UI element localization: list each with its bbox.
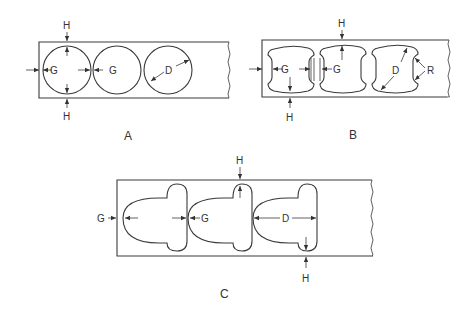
label-h: H [338, 18, 345, 29]
label-g: G [281, 64, 289, 75]
label-g: G [333, 64, 341, 75]
hole-lobed [123, 184, 187, 251]
panel-a: G G H H D A [26, 20, 230, 143]
caption-b: B [349, 128, 357, 142]
broken-edge-a [228, 42, 230, 98]
radius-arrow [415, 58, 425, 68]
label-h: H [286, 112, 293, 123]
label-g: G [109, 65, 117, 76]
broken-edge-c [371, 180, 373, 256]
caption-c: C [220, 287, 229, 301]
strip-outline-a [39, 42, 229, 98]
label-d: D [165, 65, 172, 76]
punched-strip-diagram: G G H H D A G [0, 0, 472, 315]
caption-a: A [124, 129, 132, 143]
broken-edge-b [447, 40, 450, 97]
panel-b: G G H H D R B [249, 18, 450, 142]
label-g: G [50, 65, 58, 76]
label-h: H [63, 111, 70, 122]
dimension-arrow [176, 60, 189, 66]
label-d: D [392, 65, 399, 76]
label-h: H [63, 20, 70, 31]
dimension-arrow [401, 48, 407, 62]
hole-lobed [188, 184, 252, 251]
dimension-arrow [151, 72, 164, 81]
strip-outline-c [117, 180, 373, 256]
label-h: H [236, 155, 243, 166]
label-r: R [427, 65, 434, 76]
label-g: G [97, 213, 105, 224]
label-h: H [302, 273, 309, 284]
hole-barrel [268, 46, 314, 93]
panel-c: G G H D H C [97, 155, 373, 301]
dimension-arrow [381, 76, 394, 90]
label-d: D [282, 213, 289, 224]
radius-arrow [415, 71, 425, 80]
label-g: G [201, 213, 209, 224]
